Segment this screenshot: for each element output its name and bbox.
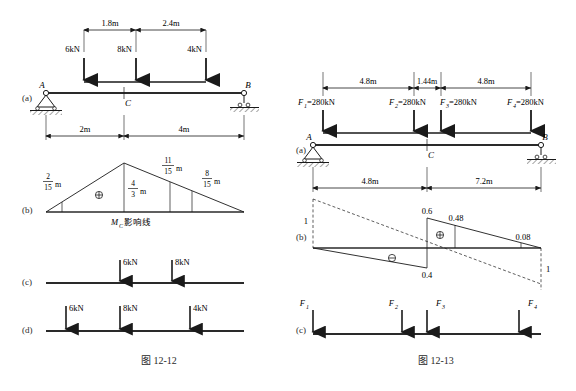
load-label-6kn: 6kN bbox=[65, 44, 80, 54]
dim-label-top-1: 1.8m bbox=[101, 18, 119, 28]
influence-title-symbol: M bbox=[110, 217, 119, 227]
load-label-f4: F 4 =280kN bbox=[506, 97, 544, 109]
force-symbol: F bbox=[506, 97, 513, 107]
support-label-a-right: A bbox=[305, 132, 312, 142]
influence-branch-negative bbox=[313, 248, 427, 268]
force-symbol: F bbox=[388, 298, 395, 308]
ordinate-label-0-6: 0.6 bbox=[422, 206, 433, 216]
panel-label-c-left: (c) bbox=[22, 277, 32, 287]
force-symbol: F bbox=[435, 298, 442, 308]
ordinate-label-left-1: 1 bbox=[304, 216, 308, 226]
fraction-denominator: 15 bbox=[164, 167, 172, 176]
load-label-c-8kn: 8kN bbox=[175, 257, 190, 267]
force-subscript: 1 bbox=[306, 304, 309, 310]
fraction-unit: m bbox=[140, 187, 147, 196]
force-symbol: F bbox=[297, 97, 304, 107]
panel-label-a-left: (a) bbox=[22, 93, 32, 103]
force-subscript: 3 bbox=[441, 304, 445, 310]
support-roller-a2-right bbox=[320, 159, 324, 163]
ordinate-label-right-1: 1 bbox=[546, 264, 550, 274]
figure-sheet: (a) 1.8m 2.4m 6kN 8kN 4kN A B C 2m 4m (b… bbox=[0, 0, 576, 391]
pin-support-triangle-a bbox=[37, 95, 55, 107]
fraction-numerator: 4 bbox=[131, 179, 135, 188]
force-subscript: 2 bbox=[395, 304, 398, 310]
load-label-f3: F 3 =280kN bbox=[439, 97, 477, 109]
pin-support-triangle-a-right bbox=[304, 147, 322, 159]
force-value: =280kN bbox=[307, 97, 335, 107]
ordinate-label-0-48: 0.48 bbox=[449, 213, 464, 223]
roller-support-hinge-b-right bbox=[538, 142, 543, 147]
support-roller-a1-right bbox=[303, 159, 307, 163]
ordinate-label-11-15: 11 15 m bbox=[162, 156, 183, 176]
point-label-c: C bbox=[125, 98, 132, 108]
ordinate-label-4-3: 4 3 m bbox=[128, 179, 147, 199]
load-label-f1: F 1 =280kN bbox=[297, 97, 335, 109]
load-label-d-6kn: 6kN bbox=[69, 303, 84, 313]
ground-hatch-a-right bbox=[297, 163, 329, 168]
panel-label-a-right: (a) bbox=[296, 145, 306, 155]
sign-negative-icon-right bbox=[388, 254, 395, 261]
dim-label-r-top-3: 4.8m bbox=[477, 76, 495, 86]
dim-label-bottom-1: 2m bbox=[80, 124, 91, 134]
support-roller-b1 bbox=[238, 103, 242, 107]
fraction-unit: m bbox=[214, 177, 221, 186]
ground-hatch-b bbox=[230, 108, 259, 113]
load-label-c-6kn: 6kN bbox=[123, 257, 138, 267]
panel-label-b-left: (b) bbox=[22, 205, 33, 215]
ground-hatch-b-right bbox=[527, 160, 556, 165]
panel-label-c-right: (c) bbox=[296, 325, 306, 335]
support-label-b: B bbox=[245, 80, 251, 90]
dim-label-r-top-1: 4.8m bbox=[359, 76, 377, 86]
dim-label-bottom-2: 4m bbox=[179, 124, 190, 134]
load-label-c-f1: F 1 bbox=[299, 298, 309, 310]
figure-caption-left: 图 12-12 bbox=[141, 352, 177, 367]
force-symbol: F bbox=[388, 97, 395, 107]
load-label-c-f2: F 2 bbox=[388, 298, 398, 310]
support-roller-b2-right bbox=[543, 155, 547, 159]
influence-title-text: 影响线 bbox=[124, 217, 151, 227]
load-label-4kn: 4kN bbox=[187, 44, 202, 54]
load-label-c-f4: F 4 bbox=[527, 298, 537, 310]
panel-label-b-right: (b) bbox=[296, 232, 307, 242]
force-value: =280kN bbox=[398, 97, 426, 107]
force-symbol: F bbox=[299, 298, 306, 308]
panel-label-d-left: (d) bbox=[22, 325, 33, 335]
fraction-unit: m bbox=[176, 164, 183, 173]
force-value: =280kN bbox=[449, 97, 477, 107]
fraction-numerator: 2 bbox=[46, 172, 50, 181]
ordinate-label-0-08: 0.08 bbox=[516, 232, 531, 242]
fraction-numerator: 11 bbox=[164, 156, 171, 165]
sign-positive-icon-right bbox=[436, 231, 443, 238]
sign-positive-icon bbox=[95, 191, 102, 198]
fraction-unit: m bbox=[55, 180, 62, 189]
support-roller-b2 bbox=[246, 103, 250, 107]
point-label-c-right: C bbox=[428, 150, 435, 160]
influence-line-title: M C 影响线 bbox=[110, 217, 151, 229]
ground-hatch-a bbox=[30, 111, 62, 116]
load-label-d-4kn: 4kN bbox=[193, 303, 208, 313]
fraction-numerator: 8 bbox=[205, 169, 209, 178]
force-value: =280kN bbox=[516, 97, 544, 107]
support-roller-a1 bbox=[36, 107, 40, 111]
load-label-f2: F 2 =280kN bbox=[388, 97, 426, 109]
load-label-d-8kn: 8kN bbox=[123, 303, 138, 313]
engineering-diagram-canvas: (a) 1.8m 2.4m 6kN 8kN 4kN A B C 2m 4m (b… bbox=[0, 0, 576, 391]
support-label-b-right: B bbox=[542, 132, 548, 142]
force-symbol: F bbox=[527, 298, 534, 308]
support-roller-a2 bbox=[53, 107, 57, 111]
force-subscript: 4 bbox=[534, 304, 537, 310]
dim-label-r-bottom-2: 7.2m bbox=[475, 176, 493, 186]
force-symbol: F bbox=[439, 97, 446, 107]
dim-label-top-2: 2.4m bbox=[162, 18, 180, 28]
roller-support-hinge-b bbox=[241, 90, 246, 95]
dim-label-r-top-2: 1.44m bbox=[417, 77, 438, 86]
ordinate-label-8-15: 8 15 m bbox=[202, 169, 221, 189]
ordinate-label-0-4: 0.4 bbox=[422, 270, 433, 280]
fraction-denominator: 15 bbox=[203, 180, 211, 189]
support-label-a: A bbox=[38, 80, 45, 90]
load-label-c-f3: F 3 bbox=[435, 298, 445, 310]
support-roller-b1-right bbox=[535, 155, 539, 159]
dim-label-r-bottom-1: 4.8m bbox=[361, 176, 379, 186]
fraction-denominator: 3 bbox=[131, 190, 135, 199]
load-label-8kn: 8kN bbox=[117, 44, 132, 54]
